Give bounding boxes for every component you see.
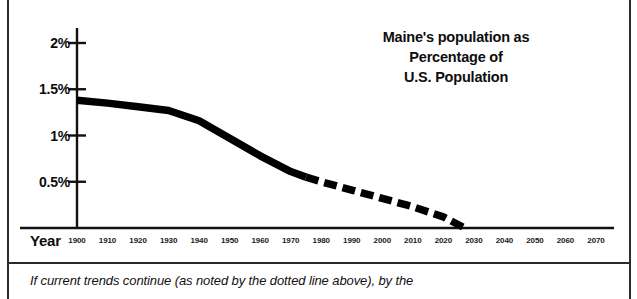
y-axis-tick-label: 1%: [50, 128, 70, 144]
chart-title-line-1: Maine's population as: [330, 27, 582, 47]
x-axis-title: Year: [30, 232, 61, 249]
y-axis-tick-label: 2%: [50, 35, 70, 51]
x-axis-tick-label: 2040: [496, 236, 513, 245]
x-axis-tick-label: 2030: [465, 236, 482, 245]
x-axis-tick-label: 1950: [221, 236, 238, 245]
x-axis-tick-label: 1910: [99, 236, 116, 245]
x-axis-tick-label: 1980: [313, 236, 330, 245]
x-axis-tick-label: 1960: [251, 236, 268, 245]
x-axis-tick-label: 2020: [435, 236, 452, 245]
x-axis-tick-label: 2010: [404, 236, 421, 245]
chart-page: 2% 1.5% 1% 0.5% 190019101920193019401950…: [0, 0, 637, 299]
y-axis-tick-1: 1.5%: [8, 81, 70, 97]
chart-title-line-2: Percentage of: [330, 47, 582, 67]
x-axis-tick-label: 2060: [557, 236, 574, 245]
x-axis-tick-label: 2000: [374, 236, 391, 245]
y-axis-tick-label: 0.5%: [39, 174, 70, 190]
x-axis-tick-label: 1900: [68, 236, 85, 245]
chart-line-historical: [77, 100, 306, 177]
x-axis-tick-label: 2070: [587, 236, 604, 245]
x-axis-tick-label: 1970: [282, 236, 299, 245]
chart-line-projected: [306, 177, 465, 228]
y-axis-tick-0: 2%: [8, 35, 70, 51]
chart-title-line-3: U.S. Population: [330, 67, 582, 87]
x-axis-tick-label: 2050: [526, 236, 543, 245]
x-axis-tick-label: 1990: [343, 236, 360, 245]
figure-caption: If current trends continue (as noted by …: [30, 273, 413, 288]
x-axis-tick-label: 1940: [190, 236, 207, 245]
chart-title: Maine's population as Percentage of U.S.…: [330, 27, 582, 87]
y-axis-tick-label: 1.5%: [39, 81, 70, 97]
x-axis-tick-label: 1920: [129, 236, 146, 245]
y-axis-tick-3: 0.5%: [8, 174, 70, 190]
x-axis-tick-label: 1930: [160, 236, 177, 245]
y-axis-tick-2: 1%: [8, 128, 70, 144]
chart-plot-area: 2% 1.5% 1% 0.5% 190019101920193019401950…: [0, 0, 637, 262]
caption-divider: [9, 262, 629, 264]
chart-series-layer: [77, 100, 465, 228]
